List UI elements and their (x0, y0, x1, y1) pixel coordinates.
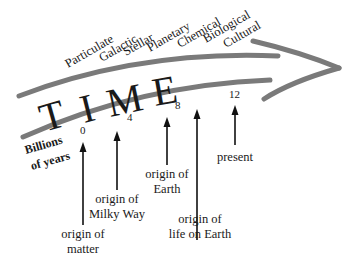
arrowhead-icon (80, 142, 87, 152)
time-arrow-diagram: Particulate Galactic Stellar Planetary C… (0, 0, 355, 269)
event-milky-way-line2: Milky Way (89, 207, 146, 221)
event-matter-line2: matter (67, 242, 100, 256)
tick-12: 12 (229, 88, 240, 100)
event-milky-way-line1: origin of (95, 192, 139, 206)
event-earth-line1: origin of (145, 167, 189, 181)
arrowhead-icon (194, 109, 201, 119)
arrowhead-lower (264, 68, 339, 99)
event-life-line1: origin of (178, 212, 222, 226)
event-labels: origin of matter origin of Milky Way ori… (61, 150, 253, 256)
title-letter-t: T (34, 91, 70, 141)
axis-label: Billions of years (23, 133, 72, 173)
event-matter-line1: origin of (61, 227, 105, 241)
title-letter-m: M (103, 74, 147, 125)
arrowhead-icon (232, 105, 239, 115)
arrowhead-icon (114, 131, 121, 141)
tick-4: 4 (127, 111, 133, 123)
tick-0: 0 (80, 124, 86, 136)
time-title: T I M E (34, 66, 181, 140)
event-earth-line2: Earth (153, 182, 181, 196)
event-present: present (217, 150, 254, 164)
arrowhead-icon (164, 117, 171, 127)
event-life-line2: life on Earth (169, 227, 232, 241)
tick-8: 8 (175, 99, 181, 111)
